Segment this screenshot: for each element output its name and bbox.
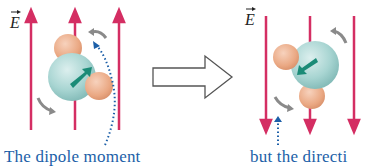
dipole-rotation-diagram (0, 0, 373, 166)
left-field-label: E (10, 14, 20, 32)
left-water-molecule (48, 34, 113, 101)
right-field-label: E (245, 11, 255, 29)
right-water-molecule (273, 41, 339, 109)
right-caption: but the directi (250, 147, 347, 166)
left-caption: The dipole moment (4, 147, 141, 166)
transition-arrow-icon (153, 56, 232, 98)
